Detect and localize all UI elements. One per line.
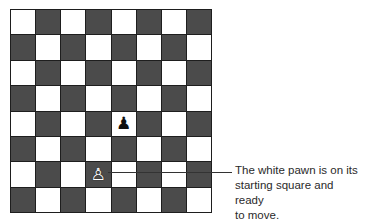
square-r2-c1 [36, 61, 60, 85]
square-r0-c0 [11, 10, 35, 34]
square-r6-c5 [137, 162, 161, 186]
square-r1-c5 [137, 35, 161, 59]
square-r3-c6 [162, 86, 186, 110]
square-r5-c0 [11, 137, 35, 161]
callout-leader-line [108, 172, 232, 173]
chess-board: ♟♙ [10, 9, 212, 213]
square-r7-c6 [162, 188, 186, 212]
callout-line-2: starting square and ready [235, 178, 365, 208]
square-r3-c2 [61, 86, 85, 110]
square-r0-c4 [112, 10, 136, 34]
square-r5-c6 [162, 137, 186, 161]
square-r6-c1 [36, 162, 60, 186]
square-r7-c0 [11, 188, 35, 212]
square-r1-c2 [61, 35, 85, 59]
square-r6-c4 [112, 162, 136, 186]
square-r1-c4 [112, 35, 136, 59]
square-r3-c4 [112, 86, 136, 110]
square-r4-c7 [187, 112, 211, 136]
black-pawn-icon: ♟ [116, 115, 131, 132]
square-r0-c6 [162, 10, 186, 34]
square-r6-c2 [61, 162, 85, 186]
square-r6-c3: ♙ [86, 162, 110, 186]
square-r4-c6 [162, 112, 186, 136]
square-r6-c7 [187, 162, 211, 186]
square-r7-c4 [112, 188, 136, 212]
square-r5-c7 [187, 137, 211, 161]
square-r3-c7 [187, 86, 211, 110]
square-r1-c6 [162, 35, 186, 59]
square-r3-c3 [86, 86, 110, 110]
square-r2-c7 [187, 61, 211, 85]
square-r0-c7 [187, 10, 211, 34]
callout-line-3: to move. [235, 208, 365, 219]
callout-text: The white pawn is on its starting square… [235, 163, 365, 219]
square-r0-c5 [137, 10, 161, 34]
square-r0-c1 [36, 10, 60, 34]
square-r4-c4: ♟ [112, 112, 136, 136]
square-r2-c4 [112, 61, 136, 85]
square-r7-c5 [137, 188, 161, 212]
square-r2-c5 [137, 61, 161, 85]
square-r4-c2 [61, 112, 85, 136]
square-r5-c1 [36, 137, 60, 161]
square-r1-c7 [187, 35, 211, 59]
square-r5-c2 [61, 137, 85, 161]
square-r1-c0 [11, 35, 35, 59]
square-r1-c1 [36, 35, 60, 59]
square-r5-c4 [112, 137, 136, 161]
square-r4-c3 [86, 112, 110, 136]
callout-line-1: The white pawn is on its [235, 163, 365, 178]
square-r0-c2 [61, 10, 85, 34]
square-r7-c3 [86, 188, 110, 212]
square-r6-c0 [11, 162, 35, 186]
square-r1-c3 [86, 35, 110, 59]
square-r2-c3 [86, 61, 110, 85]
square-r5-c5 [137, 137, 161, 161]
square-r2-c6 [162, 61, 186, 85]
square-r4-c1 [36, 112, 60, 136]
square-r7-c7 [187, 188, 211, 212]
square-r7-c1 [36, 188, 60, 212]
square-r5-c3 [86, 137, 110, 161]
square-r2-c0 [11, 61, 35, 85]
square-r4-c0 [11, 112, 35, 136]
white-pawn-icon: ♙ [91, 166, 106, 183]
square-r6-c6 [162, 162, 186, 186]
square-r0-c3 [86, 10, 110, 34]
square-r3-c1 [36, 86, 60, 110]
square-r3-c0 [11, 86, 35, 110]
square-r4-c5 [137, 112, 161, 136]
square-r2-c2 [61, 61, 85, 85]
square-r3-c5 [137, 86, 161, 110]
square-r7-c2 [61, 188, 85, 212]
